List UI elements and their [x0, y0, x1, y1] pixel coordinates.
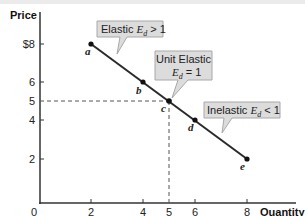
- reference-lines: [40, 101, 169, 203]
- point-e: [244, 156, 249, 161]
- point-label-e: e: [240, 160, 245, 172]
- point-label-c: c: [161, 102, 166, 114]
- y-tick-4: 4: [29, 114, 35, 126]
- x-tick-8: 8: [244, 206, 250, 216]
- x-tick-2: 2: [88, 206, 94, 216]
- y-tick-2: 2: [29, 153, 35, 165]
- x-tick-5: 5: [166, 206, 172, 216]
- x-tick-6: 6: [192, 206, 198, 216]
- callout-unit-line1: Unit Elastic: [156, 53, 212, 65]
- y-tick-5: 5: [29, 95, 35, 107]
- callout-inelastic: Inelastic Ed < 1: [204, 102, 280, 133]
- x-ticks: 0 2 4 5 6 8 Quantity: [31, 199, 305, 216]
- y-axis-title: Price: [10, 9, 37, 21]
- point-label-a: a: [85, 45, 91, 57]
- x-axis-title: Quantity: [260, 206, 305, 216]
- callout-elastic: Elastic Ed > 1: [97, 21, 166, 54]
- x-tick-0: 0: [31, 206, 37, 216]
- point-c: [166, 98, 172, 104]
- point-label-d: d: [188, 121, 194, 133]
- x-tick-4: 4: [140, 206, 146, 216]
- point-label-b: b: [136, 84, 142, 96]
- y-tick-6: 6: [29, 76, 35, 88]
- y-tick-8: $8: [23, 38, 35, 50]
- callout-unit-elastic: Unit Elastic Ed = 1: [155, 51, 212, 98]
- elasticity-chart: Price $8 6 5 4 2 0 2 4 5 6 8 Quantity El…: [0, 0, 305, 216]
